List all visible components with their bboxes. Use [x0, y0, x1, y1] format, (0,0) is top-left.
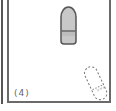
panel-drawing: ×××: [9, 0, 109, 101]
dashed-capsule-icon: ×××: [82, 64, 109, 101]
left-divider: [1, 0, 3, 104]
svg-text:×××: ×××: [95, 84, 106, 93]
figure-panel: ××× (4): [7, 0, 111, 103]
solid-capsule-icon: [61, 7, 76, 44]
panel-label: (4): [14, 88, 30, 98]
figure-stage: ××× (4): [0, 0, 116, 111]
